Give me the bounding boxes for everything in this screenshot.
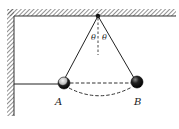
- angle-label-right: θ: [102, 33, 107, 42]
- pendulum-diagram: θ θ A B: [0, 0, 179, 129]
- dashed-arc-a-b: [69, 87, 132, 96]
- ball-a: [58, 77, 70, 89]
- string-to-b: [98, 16, 134, 78]
- angle-label-left: θ: [91, 33, 96, 42]
- ball-b: [131, 76, 143, 88]
- string-to-a: [65, 16, 98, 78]
- left-wall: [7, 9, 14, 116]
- ceiling: [8, 9, 176, 16]
- ball-b-label: B: [133, 96, 141, 107]
- ball-a-label: A: [54, 96, 62, 107]
